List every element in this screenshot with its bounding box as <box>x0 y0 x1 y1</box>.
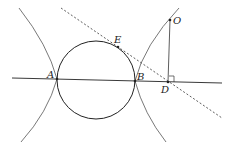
point-e-dot <box>117 46 120 49</box>
line-ab <box>12 78 222 83</box>
point-b-dot <box>134 80 137 83</box>
point-a-dot <box>56 78 59 81</box>
geometry-diagram: A B E O D <box>0 0 231 152</box>
point-d-dot <box>167 81 170 84</box>
right-angle-marker <box>169 76 174 82</box>
label-e: E <box>113 34 122 45</box>
label-d: D <box>160 84 169 95</box>
label-o: O <box>173 15 181 26</box>
label-a: A <box>46 69 54 80</box>
label-b: B <box>136 71 144 82</box>
tangent-line-dashed <box>61 8 222 118</box>
segment-od <box>168 20 170 82</box>
point-o-dot <box>169 19 172 22</box>
